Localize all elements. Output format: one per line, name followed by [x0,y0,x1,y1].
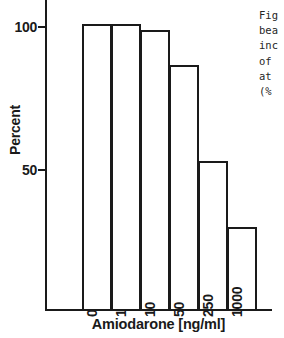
caption-line-4: of [259,54,284,69]
x-axis-title: Amiodarone [ng/ml] [45,316,272,332]
bar-label-1000: 1000 [230,287,244,317]
caption-line-1: Fig [259,8,284,23]
figure-panel: 100 50 Percent 0 1 10 50 250 1000 Amioda… [0,0,284,338]
caption-line-5: at [259,69,284,84]
bar-10 [140,30,170,311]
bar-label-250: 250 [201,294,215,317]
bar-50 [169,65,199,311]
caption-line-6: (% [259,84,284,99]
caption-line-2: bea [259,23,284,38]
bar-0 [82,24,112,311]
bar-label-10: 10 [143,302,157,317]
figure-caption: Fig bea inc of at (% [259,8,284,99]
bar-label-50: 50 [172,302,186,317]
caption-line-3: inc [259,38,284,53]
bar-1 [111,24,141,311]
bar-250 [198,161,228,311]
bar-series: 0 1 10 50 250 1000 [0,0,284,338]
